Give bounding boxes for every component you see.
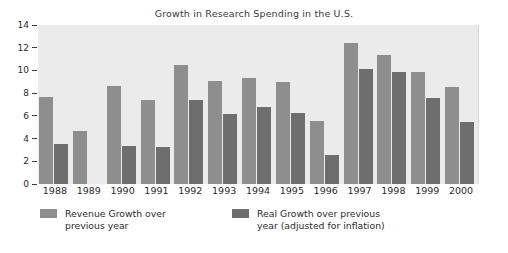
legend-entry-real: Real Growth over previous year (adjusted… — [232, 208, 385, 231]
bar-revenue-growth — [344, 43, 358, 184]
y-axis-tick: 2 — [23, 156, 38, 166]
x-axis-tick-label: 1988 — [38, 185, 72, 196]
bar-revenue-growth — [377, 55, 391, 184]
chart-legend: Revenue Growth over previous year Real G… — [0, 208, 508, 248]
chart-title: Growth in Research Spending in the U.S. — [0, 8, 508, 19]
bar-group — [444, 25, 478, 184]
x-axis: 1988198919901991199219931994199519961997… — [38, 185, 478, 201]
x-axis-tick-label: 1999 — [410, 185, 444, 196]
y-axis-tick-label: 10 — [18, 65, 29, 75]
y-axis-tick-mark — [32, 115, 37, 116]
y-axis-tick-label: 14 — [18, 20, 29, 30]
bar-revenue-growth — [411, 72, 425, 184]
bars-layer — [38, 25, 478, 184]
bar-revenue-growth — [39, 97, 53, 184]
legend-label-revenue: Revenue Growth over previous year — [65, 208, 166, 231]
bar-real-growth — [426, 98, 440, 184]
bar-group — [38, 25, 72, 184]
bar-real-growth — [359, 69, 373, 184]
x-axis-tick-label: 1998 — [376, 185, 410, 196]
legend-swatch-revenue-icon — [40, 209, 57, 218]
bar-group — [140, 25, 174, 184]
bar-group — [72, 25, 106, 184]
y-axis-tick: 12 — [18, 43, 38, 53]
y-axis-tick-mark — [32, 161, 37, 162]
bar-real-growth — [156, 147, 170, 184]
y-axis-tick-label: 8 — [23, 88, 29, 98]
bar-group — [241, 25, 275, 184]
legend-swatch-real-icon — [232, 209, 249, 218]
y-axis-tick-mark — [32, 47, 37, 48]
chart-figure: Growth in Research Spending in the U.S. … — [0, 0, 508, 253]
bar-real-growth — [392, 72, 406, 184]
bar-revenue-growth — [174, 65, 188, 184]
bar-revenue-growth — [310, 121, 324, 184]
plot-area — [38, 25, 479, 184]
bar-real-growth — [460, 122, 474, 184]
bar-revenue-growth — [276, 82, 290, 184]
y-axis: 02468101214 — [0, 25, 38, 184]
bar-real-growth — [325, 155, 339, 184]
bar-revenue-growth — [73, 131, 87, 184]
x-axis-tick-label: 1992 — [173, 185, 207, 196]
y-axis-tick: 10 — [18, 65, 38, 75]
bar-group — [376, 25, 410, 184]
y-axis-tick-mark — [32, 184, 37, 185]
x-axis-tick-label: 1997 — [343, 185, 377, 196]
bar-group — [309, 25, 343, 184]
y-axis-tick-label: 0 — [23, 179, 29, 189]
y-axis-tick-mark — [32, 93, 37, 94]
x-axis-tick-label: 1996 — [309, 185, 343, 196]
bar-real-growth — [122, 146, 136, 184]
bar-revenue-growth — [445, 87, 459, 184]
y-axis-tick: 4 — [23, 134, 38, 144]
y-axis-tick-label: 2 — [23, 156, 29, 166]
y-axis-tick-label: 12 — [18, 43, 29, 53]
y-axis-tick: 8 — [23, 88, 38, 98]
bar-group — [173, 25, 207, 184]
legend-entry-revenue: Revenue Growth over previous year — [40, 208, 166, 231]
bar-group — [275, 25, 309, 184]
bar-revenue-growth — [107, 86, 121, 184]
y-axis-tick-mark — [32, 25, 37, 26]
x-axis-tick-label: 1994 — [241, 185, 275, 196]
y-axis-tick-mark — [32, 138, 37, 139]
bar-real-growth — [54, 144, 68, 184]
bar-revenue-growth — [242, 78, 256, 184]
legend-label-real: Real Growth over previous year (adjusted… — [257, 208, 385, 231]
bar-group — [106, 25, 140, 184]
bar-revenue-growth — [141, 100, 155, 184]
bar-real-growth — [291, 113, 305, 184]
x-axis-tick-label: 1993 — [207, 185, 241, 196]
y-axis-tick: 0 — [23, 179, 38, 189]
x-axis-tick-label: 2000 — [444, 185, 478, 196]
x-axis-tick-label: 1990 — [106, 185, 140, 196]
x-axis-tick-label: 1991 — [140, 185, 174, 196]
bar-group — [207, 25, 241, 184]
x-axis-tick-label: 1989 — [72, 185, 106, 196]
bar-group — [343, 25, 377, 184]
y-axis-tick-label: 4 — [23, 134, 29, 144]
x-axis-tick-label: 1995 — [275, 185, 309, 196]
bar-real-growth — [189, 100, 203, 184]
bar-real-growth — [257, 107, 271, 184]
bar-real-growth — [223, 114, 237, 184]
y-axis-tick: 14 — [18, 20, 38, 30]
bar-group — [410, 25, 444, 184]
bar-revenue-growth — [208, 81, 222, 184]
y-axis-tick-label: 6 — [23, 111, 29, 121]
y-axis-tick-mark — [32, 70, 37, 71]
y-axis-tick: 6 — [23, 111, 38, 121]
